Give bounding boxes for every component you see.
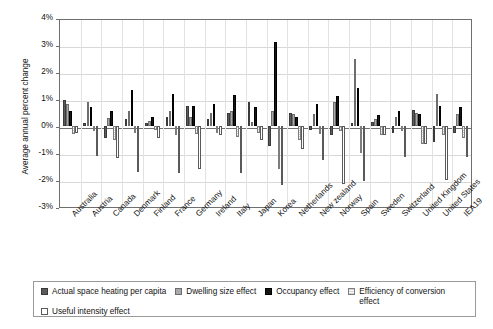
bar — [104, 126, 107, 138]
bar-group — [163, 20, 184, 207]
legend-item[interactable]: Occupancy effect — [265, 287, 339, 297]
bar — [316, 104, 319, 126]
bar — [260, 126, 263, 140]
plot-area — [59, 19, 472, 208]
y-axis-tick-mark — [56, 208, 59, 209]
bar — [342, 126, 345, 184]
bar — [322, 126, 325, 160]
black-swatch — [265, 288, 272, 295]
bar — [116, 126, 119, 158]
bar — [377, 115, 380, 126]
bar — [439, 106, 442, 126]
legend-item-label: Dwelling size effect — [186, 287, 256, 297]
y-axis-tick-label: -2% — [38, 175, 53, 184]
legend-item[interactable]: Efficiency of conversion effect — [348, 287, 455, 307]
bar — [110, 111, 113, 126]
legend-item[interactable]: Useful intensity effect — [41, 307, 130, 317]
y-axis-tick-label: 0% — [41, 121, 53, 130]
y-axis-tick-label: 2% — [41, 67, 53, 76]
medium-gray-swatch — [175, 288, 182, 295]
bar — [466, 126, 469, 157]
y-axis-tick-label: -1% — [38, 148, 53, 157]
bar-group — [60, 20, 81, 207]
bar — [274, 42, 277, 126]
bar-groups — [60, 20, 471, 207]
legend-item-label: Occupancy effect — [276, 287, 339, 297]
bar-group — [286, 20, 307, 207]
bar-group — [368, 20, 389, 207]
bar — [424, 126, 427, 144]
bar-group — [265, 20, 286, 207]
bar — [301, 126, 304, 149]
bar — [233, 95, 236, 126]
bar — [131, 90, 134, 126]
bar — [392, 126, 395, 133]
bar — [240, 126, 243, 173]
bar — [96, 126, 99, 156]
bar — [157, 126, 160, 138]
dark-gray-swatch — [41, 288, 48, 295]
legend-row-secondary: Useful intensity effect — [41, 307, 469, 317]
legend-row-primary: Actual space heating per capitaDwelling … — [41, 287, 469, 307]
bar — [418, 114, 421, 126]
bar — [357, 88, 360, 126]
bar — [69, 111, 72, 126]
bar-group — [409, 20, 430, 207]
bar-group — [142, 20, 163, 207]
bar — [330, 126, 333, 135]
bar — [90, 107, 93, 126]
bar — [404, 126, 407, 157]
bar — [151, 117, 154, 126]
chart-legend: Actual space heating per capitaDwelling … — [33, 281, 476, 317]
bar-group — [224, 20, 245, 207]
bar — [192, 106, 195, 126]
bar — [178, 126, 181, 173]
legend-item[interactable]: Actual space heating per capita — [41, 287, 166, 297]
x-axis-tick-labels: AustraliaAustriaCanadaDenmarkFinlandFran… — [59, 210, 472, 272]
chart-figure: Average annual percent change 4%3%2%1%0%… — [0, 0, 493, 329]
legend-item-label: Efficiency of conversion effect — [359, 287, 455, 307]
bar — [336, 96, 339, 126]
bar — [309, 126, 312, 130]
bar — [281, 126, 284, 185]
bar-group — [307, 20, 328, 207]
bar — [268, 126, 271, 146]
bar — [383, 126, 386, 135]
bar-group — [81, 20, 102, 207]
bar-group — [430, 20, 451, 207]
bar — [445, 126, 448, 180]
bar — [398, 111, 401, 126]
white-swatch — [41, 308, 48, 315]
y-axis-tick-label: 4% — [41, 13, 53, 22]
bar-group — [204, 20, 225, 207]
bar — [172, 94, 175, 126]
y-axis-tick-label: 3% — [41, 40, 53, 49]
bar-group — [122, 20, 143, 207]
y-axis-tick-label: 1% — [41, 94, 53, 103]
bar — [198, 126, 201, 169]
bar-group — [183, 20, 204, 207]
bar-group — [327, 20, 348, 207]
legend-item[interactable]: Dwelling size effect — [175, 287, 256, 297]
bar — [433, 126, 436, 142]
bar — [363, 126, 366, 181]
bar — [254, 107, 257, 126]
bar-group — [101, 20, 122, 207]
bar — [453, 126, 456, 133]
bar — [459, 107, 462, 126]
y-axis-tick-label: -3% — [38, 202, 53, 211]
bar — [75, 126, 78, 133]
bar — [137, 126, 140, 172]
bar-group — [389, 20, 410, 207]
y-axis-tick-labels: 4%3%2%1%0%-1%-2%-3% — [0, 0, 59, 329]
hatched-light-gray-swatch — [348, 288, 355, 295]
legend-item-label: Actual space heating per capita — [52, 287, 166, 297]
bar — [295, 117, 298, 126]
legend-item-label: Useful intensity effect — [52, 307, 130, 317]
bar — [213, 104, 216, 126]
bar — [219, 126, 222, 135]
bar-group — [245, 20, 266, 207]
